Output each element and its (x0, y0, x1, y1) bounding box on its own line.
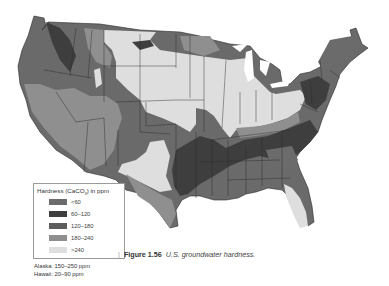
legend-item-under-60: <60 (49, 197, 81, 206)
map-legend: Hardness (CaCO3) in ppm <60 60–120 120–1… (33, 183, 125, 259)
legend-title: Hardness (CaCO3) in ppm (37, 187, 109, 196)
legend-title-prefix: Hardness (CaCO (37, 187, 84, 194)
legend-label: >240 (71, 247, 84, 253)
legend-swatch (49, 247, 67, 253)
legend-swatch (49, 199, 67, 205)
figure-number: Figure 1.56 (124, 250, 162, 259)
hawaii-note: Hawaii: 20–90 ppm (34, 270, 90, 278)
legend-item-180-240: 180–240 (49, 233, 94, 242)
legend-label: <60 (71, 199, 81, 205)
caption-divider: | (118, 250, 120, 259)
legend-item-120-180: 120–180 (49, 221, 94, 230)
legend-swatch (49, 235, 67, 241)
legend-label: 60–120 (71, 211, 90, 217)
legend-swatch (49, 223, 67, 229)
legend-item-60-120: 60–120 (49, 209, 90, 218)
alaska-note: Alaska: 150–250 ppm (34, 262, 90, 270)
legend-label: 180–240 (71, 235, 94, 241)
legend-title-suffix: ) in ppm (87, 187, 109, 194)
caption-text: U.S. groundwater hardness. (166, 250, 256, 259)
legend-notes: Alaska: 150–250 ppm Hawaii: 20–90 ppm (34, 262, 90, 278)
legend-item-over-240: >240 (49, 245, 84, 254)
legend-label: 120–180 (71, 223, 94, 229)
legend-swatch (49, 211, 67, 217)
figure-caption: |Figure 1.56U.S. groundwater hardness. (118, 250, 255, 259)
